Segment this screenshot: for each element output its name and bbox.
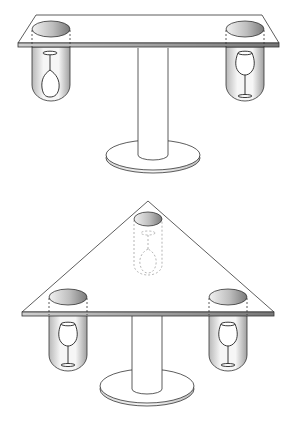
glass-holder-right <box>226 47 264 101</box>
glass-holder-right <box>209 315 247 371</box>
hole-back <box>134 212 162 226</box>
diagram-canvas <box>0 0 299 427</box>
triangular-table-figure <box>22 201 274 406</box>
glass-holder-left <box>32 47 70 101</box>
table-column <box>138 48 168 160</box>
table-column <box>132 316 162 394</box>
glass-holder-left <box>49 315 87 371</box>
rectangular-table-figure <box>18 15 279 173</box>
